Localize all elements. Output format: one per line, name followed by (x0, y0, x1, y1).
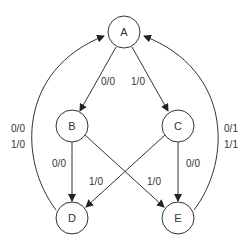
edge-label-e-a-2: 1/1 (224, 139, 238, 150)
state-label-a: A (120, 26, 128, 38)
state-diagram: 0/0 1/0 0/0 1/0 1/0 0/0 0/0 1/0 0/1 1/1 … (0, 0, 247, 241)
edge-b-e (85, 135, 164, 207)
edge-label-d-a-1: 0/0 (11, 123, 25, 134)
state-node-b: B (56, 110, 88, 142)
state-label-e: E (174, 212, 181, 224)
edge-label-a-c: 1/0 (131, 76, 145, 87)
state-node-d: D (56, 202, 88, 234)
state-label-c: C (174, 120, 182, 132)
edge-label-b-e: 1/0 (147, 176, 161, 187)
edge-label-c-d: 1/0 (89, 176, 103, 187)
edge-c-d (86, 135, 165, 207)
edge-label-d-a-2: 1/0 (11, 139, 25, 150)
state-label-d: D (68, 212, 76, 224)
edge-label-b-d: 0/0 (52, 158, 66, 169)
edge-label-e-a-1: 0/1 (224, 123, 238, 134)
state-node-c: C (162, 110, 194, 142)
edge-label-a-b: 0/0 (101, 76, 115, 87)
state-node-e: E (162, 202, 194, 234)
state-label-b: B (68, 120, 75, 132)
state-node-a: A (108, 16, 140, 48)
edge-label-c-e: 0/0 (186, 158, 200, 169)
